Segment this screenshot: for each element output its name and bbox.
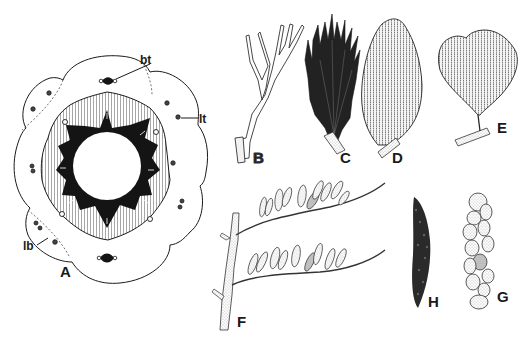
panel-f-fertile-branch: F xyxy=(212,179,385,330)
panel-d-elongate-leaf: D xyxy=(362,19,422,166)
panel-c-dark-fan: C xyxy=(305,14,360,166)
panel-label-e: E xyxy=(497,119,507,136)
panel-a-stem-section: bt lt lb A xyxy=(14,53,207,283)
label-bt: bt xyxy=(140,53,151,67)
panel-label-c: C xyxy=(340,149,351,166)
panel-label-h: H xyxy=(428,293,439,310)
label-lt: lt xyxy=(199,112,206,126)
label-lb: lb xyxy=(23,239,34,253)
panel-label-f: F xyxy=(237,313,246,330)
panel-label-b: B xyxy=(253,149,264,166)
panel-b-branched-axis: B xyxy=(235,24,304,166)
panel-e-fan-leaf: E xyxy=(438,30,517,146)
panel-h-granule-cluster: H xyxy=(412,197,439,310)
panel-label-g: G xyxy=(497,288,509,305)
central-pith xyxy=(73,132,141,200)
panel-label-a: A xyxy=(60,263,71,280)
panel-label-d: D xyxy=(392,149,403,166)
botanical-figure: bt lt lb A B C D E xyxy=(0,0,522,340)
panel-g-sporangia-cluster: G xyxy=(463,193,509,309)
